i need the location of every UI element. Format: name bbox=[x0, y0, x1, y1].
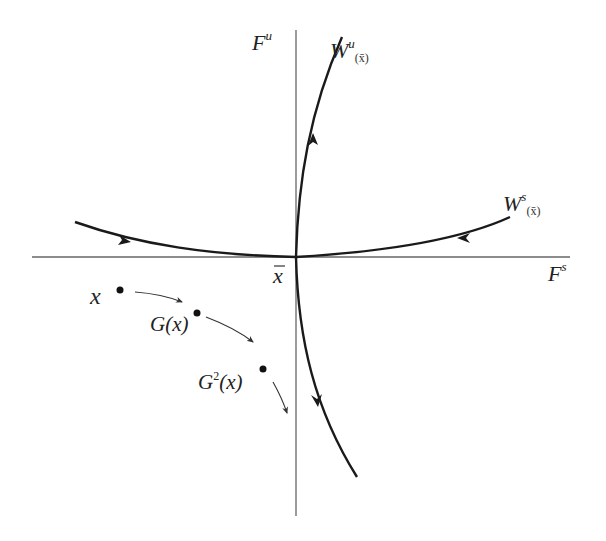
unstable-manifold-lower bbox=[296, 257, 357, 477]
orbit-label-G2x: G2(x) bbox=[198, 369, 242, 394]
orbit-label-x: x bbox=[89, 283, 101, 309]
unstable-manifold-label: Wu(x̄) bbox=[330, 36, 369, 65]
orbit-point-Gx bbox=[194, 310, 201, 317]
orbit-arrow-1 bbox=[135, 292, 182, 302]
orbit-label-Gx: G(x) bbox=[150, 312, 188, 336]
stable-manifold-label: Ws(x̄) bbox=[503, 189, 540, 218]
phase-portrait-diagram: Fu Fs Wu(x̄) Ws(x̄) x x G(x) G2(x) bbox=[0, 0, 606, 541]
svg-text:x: x bbox=[272, 263, 283, 288]
stable-manifold-right bbox=[296, 217, 510, 257]
orbit-point-G2x bbox=[260, 366, 267, 373]
stable-manifold-left bbox=[75, 222, 296, 257]
fixed-point-label: x bbox=[272, 263, 285, 288]
orbit-arrow-3 bbox=[273, 382, 287, 413]
orbit-point-x bbox=[117, 287, 124, 294]
axis-label-Fu: Fu bbox=[251, 28, 272, 55]
unstable-manifold-upper bbox=[296, 37, 342, 257]
axis-label-Fs: Fs bbox=[547, 259, 567, 286]
orbit-arrow-2 bbox=[206, 317, 253, 342]
